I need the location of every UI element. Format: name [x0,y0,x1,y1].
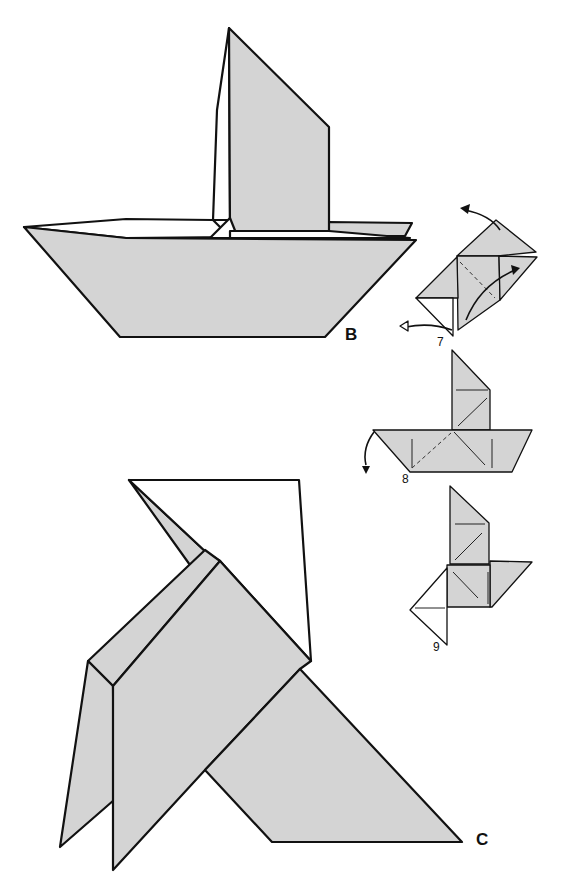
step-8-number: 8 [402,472,409,486]
figure-b-sailboat [24,28,416,337]
step-7-diagram [400,204,537,336]
step-7-number: 7 [437,335,444,349]
figure-c-bird [60,480,462,870]
figure-b-label: B [345,325,357,345]
step-9-number: 9 [433,640,440,654]
origami-diagram [0,0,562,889]
figure-c-label: C [476,830,488,850]
step-9-diagram [410,486,532,645]
step-8-diagram [362,350,532,474]
